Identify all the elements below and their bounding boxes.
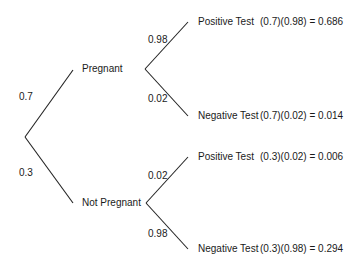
prob-notpregnant-positive: 0.02 [148, 170, 167, 182]
prob-pregnant: 0.7 [19, 91, 33, 103]
prob-notpregnant-negative: 0.98 [148, 228, 167, 240]
tree-branches [0, 0, 352, 270]
leaf-pregnant-positive-label: Positive Test [198, 16, 254, 28]
prob-not-pregnant: 0.3 [19, 167, 33, 179]
node-pregnant: Pregnant [82, 63, 123, 75]
branch-notpregnant-negative [146, 203, 188, 249]
prob-pregnant-positive: 0.98 [148, 34, 167, 46]
node-not-pregnant: Not Pregnant [82, 197, 141, 209]
leaf-notpregnant-negative-label: Negative Test [198, 243, 258, 255]
leaf-pregnant-negative-calc: (0.7)(0.02) = 0.014 [260, 110, 343, 122]
leaf-pregnant-positive-calc: (0.7)(0.98) = 0.686 [260, 16, 343, 28]
branch-pregnant [25, 70, 73, 137]
leaf-notpregnant-positive-label: Positive Test [198, 151, 254, 163]
prob-pregnant-negative: 0.02 [148, 93, 167, 105]
leaf-notpregnant-positive-calc: (0.3)(0.02) = 0.006 [260, 151, 343, 163]
leaf-notpregnant-negative-calc: (0.3)(0.98) = 0.294 [260, 243, 343, 255]
leaf-pregnant-negative-label: Negative Test [198, 110, 258, 122]
